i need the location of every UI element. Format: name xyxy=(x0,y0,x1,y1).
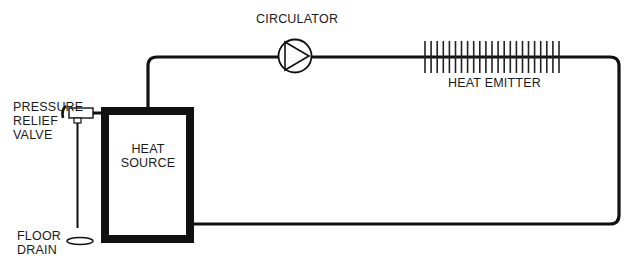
floor-drain-icon xyxy=(67,238,93,245)
pressure-relief-valve-label: PRESSURE RELIEF VALVE xyxy=(13,100,83,142)
heat-source-label: HEAT SOURCE xyxy=(120,142,176,170)
heat-source-box xyxy=(105,111,190,239)
heat-emitter-label: HEAT EMITTER xyxy=(448,76,541,90)
supply-pipe-after-pump xyxy=(194,57,619,224)
circulator-label: CIRCULATOR xyxy=(256,12,338,26)
hydronic-loop-diagram xyxy=(0,0,635,262)
floor-drain-label: FLOOR DRAIN xyxy=(17,229,61,257)
supply-pipe xyxy=(148,57,278,108)
circulator-pump-icon xyxy=(279,40,312,73)
